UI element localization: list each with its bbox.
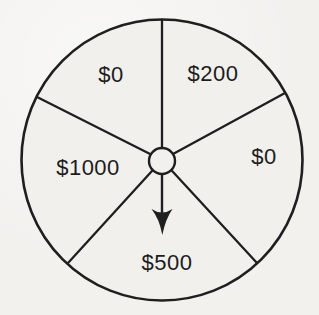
sector-label-right: $0 xyxy=(251,144,276,170)
sector-label-left: $1000 xyxy=(56,155,120,181)
sector-label-bottom: $500 xyxy=(142,250,193,276)
sector-label-top-left: $0 xyxy=(98,62,123,88)
sector-label-top-right: $200 xyxy=(188,61,239,87)
spinner-diagram: $0 $200 $0 $500 $1000 xyxy=(0,0,319,315)
wheel-hub xyxy=(149,148,175,174)
